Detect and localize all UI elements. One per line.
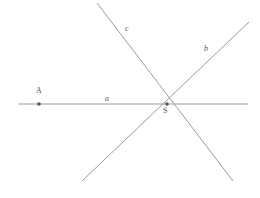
point-s-label: S: [163, 107, 167, 115]
geometry-figure: a b c A S: [0, 0, 260, 198]
line-c-label: c: [125, 25, 129, 33]
point-marker-A: [37, 102, 41, 106]
point-a-label: A: [36, 87, 42, 95]
line-a-label: a: [105, 95, 109, 103]
line-b-label: b: [204, 45, 208, 53]
line-c: [97, 3, 233, 181]
geometry-canvas: [0, 0, 260, 198]
